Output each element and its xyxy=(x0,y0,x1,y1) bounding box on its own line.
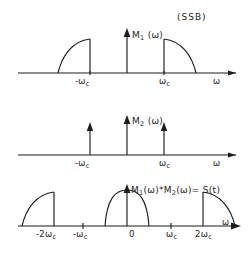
panel-3-tick-neg-wc-sub: c xyxy=(84,233,88,241)
panel-1-x-axis-arrowhead xyxy=(228,70,236,75)
panel-3-operator: *M xyxy=(159,185,172,195)
panel-1-function-label: M1 (ω) xyxy=(132,30,163,42)
panel-3-tick-pos-wc-sub: c xyxy=(173,233,177,241)
panel-2-tick-label-neg-wc: -ωc xyxy=(75,158,89,170)
panel-2-tick-pos-wc-sub: c xyxy=(166,162,170,170)
panel-1-tick-neg-wc-text: -ω xyxy=(75,76,86,86)
panel-3-tick-neg-wc-text: -ω xyxy=(73,229,84,239)
panel-1-fn-arg: (ω) xyxy=(148,30,163,40)
panel-1-right-lobe-curve xyxy=(164,39,196,73)
panel-2-x-axis-arrowhead xyxy=(228,152,236,157)
panel-3-left-lobe-curve xyxy=(22,192,54,226)
panel-2-tick-neg-wc-text: -ω xyxy=(75,158,86,168)
panel-2-axis-label: ω xyxy=(213,158,220,168)
panel-3-tick-pos-2wc-sub: c xyxy=(208,233,212,241)
panel-2-impulse-neg-wc-arrowhead xyxy=(87,122,93,131)
panel-3-tick-label-neg-2wc: -2ωc xyxy=(36,229,56,241)
panel-2-y-axis-arrowhead xyxy=(124,115,131,124)
panel-3-tick-neg-2wc-text: -2ω xyxy=(36,229,53,239)
panel-3-y-axis-arrowhead xyxy=(124,184,131,193)
panel-3-tick-neg-2wc-sub: c xyxy=(53,233,57,241)
panel-1-y-axis-arrowhead xyxy=(124,28,131,37)
ssb-spectrum-figure: (SSB) xyxy=(0,0,252,256)
panel-2-fn-letter: M xyxy=(132,116,140,126)
panel-1-tick-neg-wc-sub: c xyxy=(86,80,90,88)
panel-2-function-label: M2 (ω) xyxy=(132,116,163,128)
panel-3-tick-label-pos-2wc: 2ωc xyxy=(195,229,212,241)
panel-3-result: = S(t) xyxy=(192,185,220,195)
panel-3-tick-pos-2wc-text: 2ω xyxy=(195,229,208,239)
panel-1-tick-label-pos-wc: ωc xyxy=(159,76,170,88)
panel-1-tick-pos-wc-sub: c xyxy=(166,80,170,88)
figure-canvas xyxy=(0,0,252,256)
panel-3-fn-arg: (ω) xyxy=(144,185,159,195)
panel-1-left-lobe-curve xyxy=(58,39,90,73)
panel-3-tick-label-zero: 0 xyxy=(129,229,135,239)
panel-1-graphics xyxy=(18,28,236,76)
panel-2-tick-neg-wc-sub: c xyxy=(86,162,90,170)
panel-3-fn-letter: M xyxy=(131,185,139,195)
panel-3-tick-label-neg-wc: -ωc xyxy=(73,229,87,241)
panel-2-graphics xyxy=(18,115,236,158)
panel-3-tick-label-pos-wc: ωc xyxy=(166,229,177,241)
panel-1-fn-index: 1 xyxy=(140,34,144,42)
panel-3-function-label: M1(ω)*M2(ω)= S(t) xyxy=(131,185,220,197)
panel-3-axis-label: ω xyxy=(222,217,229,227)
panel-2-tick-label-pos-wc: ωc xyxy=(159,158,170,170)
panel-3-operator-arg: (ω) xyxy=(176,185,191,195)
panel-2-fn-index: 2 xyxy=(140,120,144,128)
panel-1-axis-label: ω xyxy=(213,76,220,86)
panel-1-tick-label-neg-wc: -ωc xyxy=(75,76,89,88)
panel-1-fn-letter: M xyxy=(132,30,140,40)
panel-2-fn-arg: (ω) xyxy=(148,116,163,126)
